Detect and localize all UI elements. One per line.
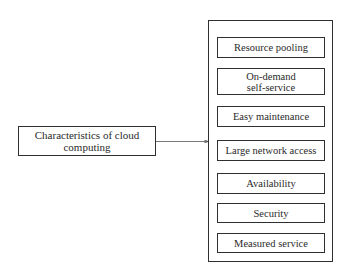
characteristic-label: Resource pooling	[234, 42, 308, 53]
arrow-connector	[156, 140, 210, 143]
characteristic-label: Measured service	[234, 238, 308, 249]
characteristic-label: Easy maintenance	[233, 111, 309, 122]
characteristic-label: Large network access	[226, 145, 317, 156]
characteristic-label: Security	[254, 208, 289, 219]
source-node-label: Characteristics of cloud computing	[23, 129, 151, 153]
characteristic-label: On-demand self-service	[236, 71, 306, 93]
characteristic-label: Availability	[246, 178, 295, 189]
characteristic-node: Availability	[217, 173, 325, 194]
characteristic-node: Resource pooling	[217, 37, 325, 58]
characteristic-node: Large network access	[217, 140, 325, 161]
characteristic-node: Easy maintenance	[217, 106, 325, 127]
source-node: Characteristics of cloud computing	[18, 126, 156, 156]
characteristic-node: Measured service	[217, 233, 325, 253]
characteristic-node: On-demand self-service	[217, 68, 325, 95]
characteristic-node: Security	[217, 203, 325, 223]
